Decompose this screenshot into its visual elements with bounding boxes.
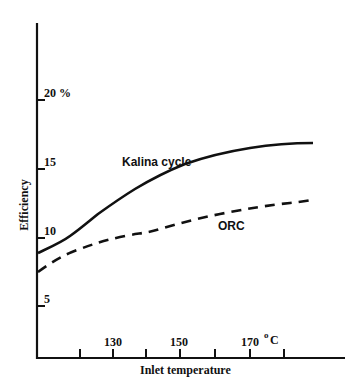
efficiency-chart: 20 % 15 10 5 130 150 170 o C Inlet tempe… (0, 0, 363, 392)
y-tick-label-5: 5 (44, 292, 50, 306)
y-tick-label-20: 20 % (44, 86, 71, 100)
orc-line (38, 200, 311, 272)
x-ticks (80, 349, 284, 358)
x-tick-label-150: 150 (170, 335, 188, 349)
x-unit-c: C (270, 333, 279, 347)
x-unit-degree: o (264, 330, 269, 340)
y-ticks (37, 100, 45, 306)
x-tick-label-170: 170 (241, 335, 259, 349)
orc-label: ORC (218, 219, 245, 233)
y-tick-label-10: 10 (44, 224, 56, 238)
kalina-cycle-label: Kalina cycle (122, 155, 192, 169)
y-axis-title: Efficiency (17, 179, 31, 230)
x-axis-title: Inlet temperature (140, 363, 231, 377)
x-tick-label-130: 130 (104, 335, 122, 349)
y-tick-label-15: 15 (44, 155, 56, 169)
